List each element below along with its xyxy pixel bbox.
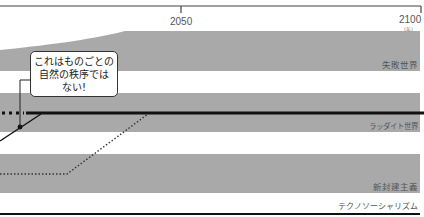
- scenario-diagram: 2050 2100 (年) 失敗世界 ラッダイト世界 新封建主義 テクノソーシャ…: [0, 0, 424, 217]
- callout-line-1: これはものごとの: [34, 55, 114, 68]
- band-label-luddite-world: ラッダイト世界: [369, 120, 418, 131]
- diagram-graphics: [0, 0, 424, 217]
- callout-line-3: ない!: [62, 81, 86, 94]
- tick-label-2100: 2100: [399, 14, 421, 25]
- callout-line-2: 自然の秩序では: [39, 68, 109, 81]
- band-label-techno-socialism: テクノソーシャリズム: [338, 200, 418, 211]
- callout-box: これはものごとの 自然の秩序では ない!: [30, 51, 118, 97]
- tick-label-2050: 2050: [170, 16, 192, 27]
- band-label-neo-feudalism: 新封建主義: [373, 180, 418, 192]
- band-label-failed-world: 失敗世界: [382, 58, 418, 70]
- axis-unit-label: (年): [404, 25, 413, 32]
